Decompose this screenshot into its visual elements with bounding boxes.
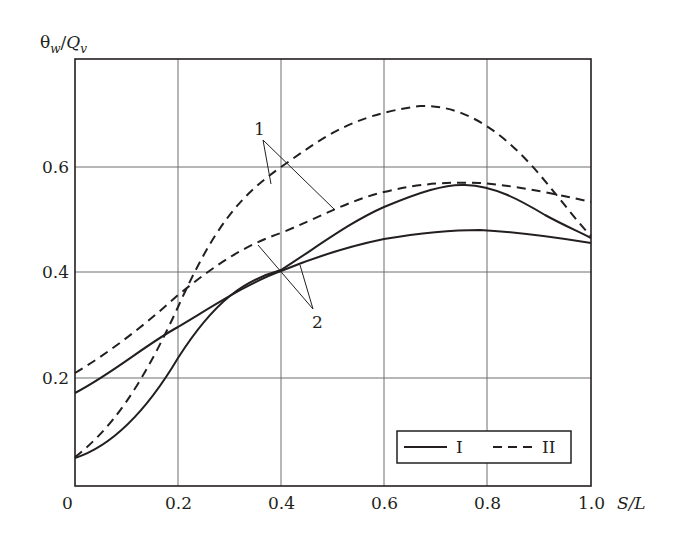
- x-tick-0: 0: [62, 493, 73, 513]
- x-tick-0.2: 0.2: [165, 493, 192, 513]
- annotation-1-leaders: [263, 140, 335, 210]
- grid: [75, 59, 591, 486]
- x-tick-0.4: 0.4: [268, 493, 295, 513]
- annotation-2: 2: [312, 312, 323, 332]
- x-tick-0.8: 0.8: [474, 493, 501, 513]
- x-axis-label: S/L: [617, 493, 646, 513]
- curve-2-II-dashed: [75, 183, 591, 373]
- x-tick-0.6: 0.6: [371, 493, 398, 513]
- y-tick-0.4: 0.4: [42, 262, 69, 282]
- curve-1-I-solid: [75, 185, 591, 458]
- y-tick-0.2: 0.2: [42, 368, 69, 388]
- line-chart: θw/Qv 0.6 0.4 0.2 0 0.2 0.4 0.6 0.8 1.0 …: [0, 0, 681, 535]
- y-tick-0.6: 0.6: [42, 157, 69, 177]
- annotation-1: 1: [254, 119, 265, 139]
- y-axis-label: θw/Qv: [40, 32, 87, 56]
- legend-label-I: I: [456, 437, 463, 457]
- curve-2-I-solid: [75, 230, 591, 393]
- legend: I II: [397, 431, 571, 463]
- curve-1-II-dashed: [75, 106, 591, 457]
- x-tick-1.0: 1.0: [578, 493, 605, 513]
- legend-label-II: II: [542, 437, 555, 457]
